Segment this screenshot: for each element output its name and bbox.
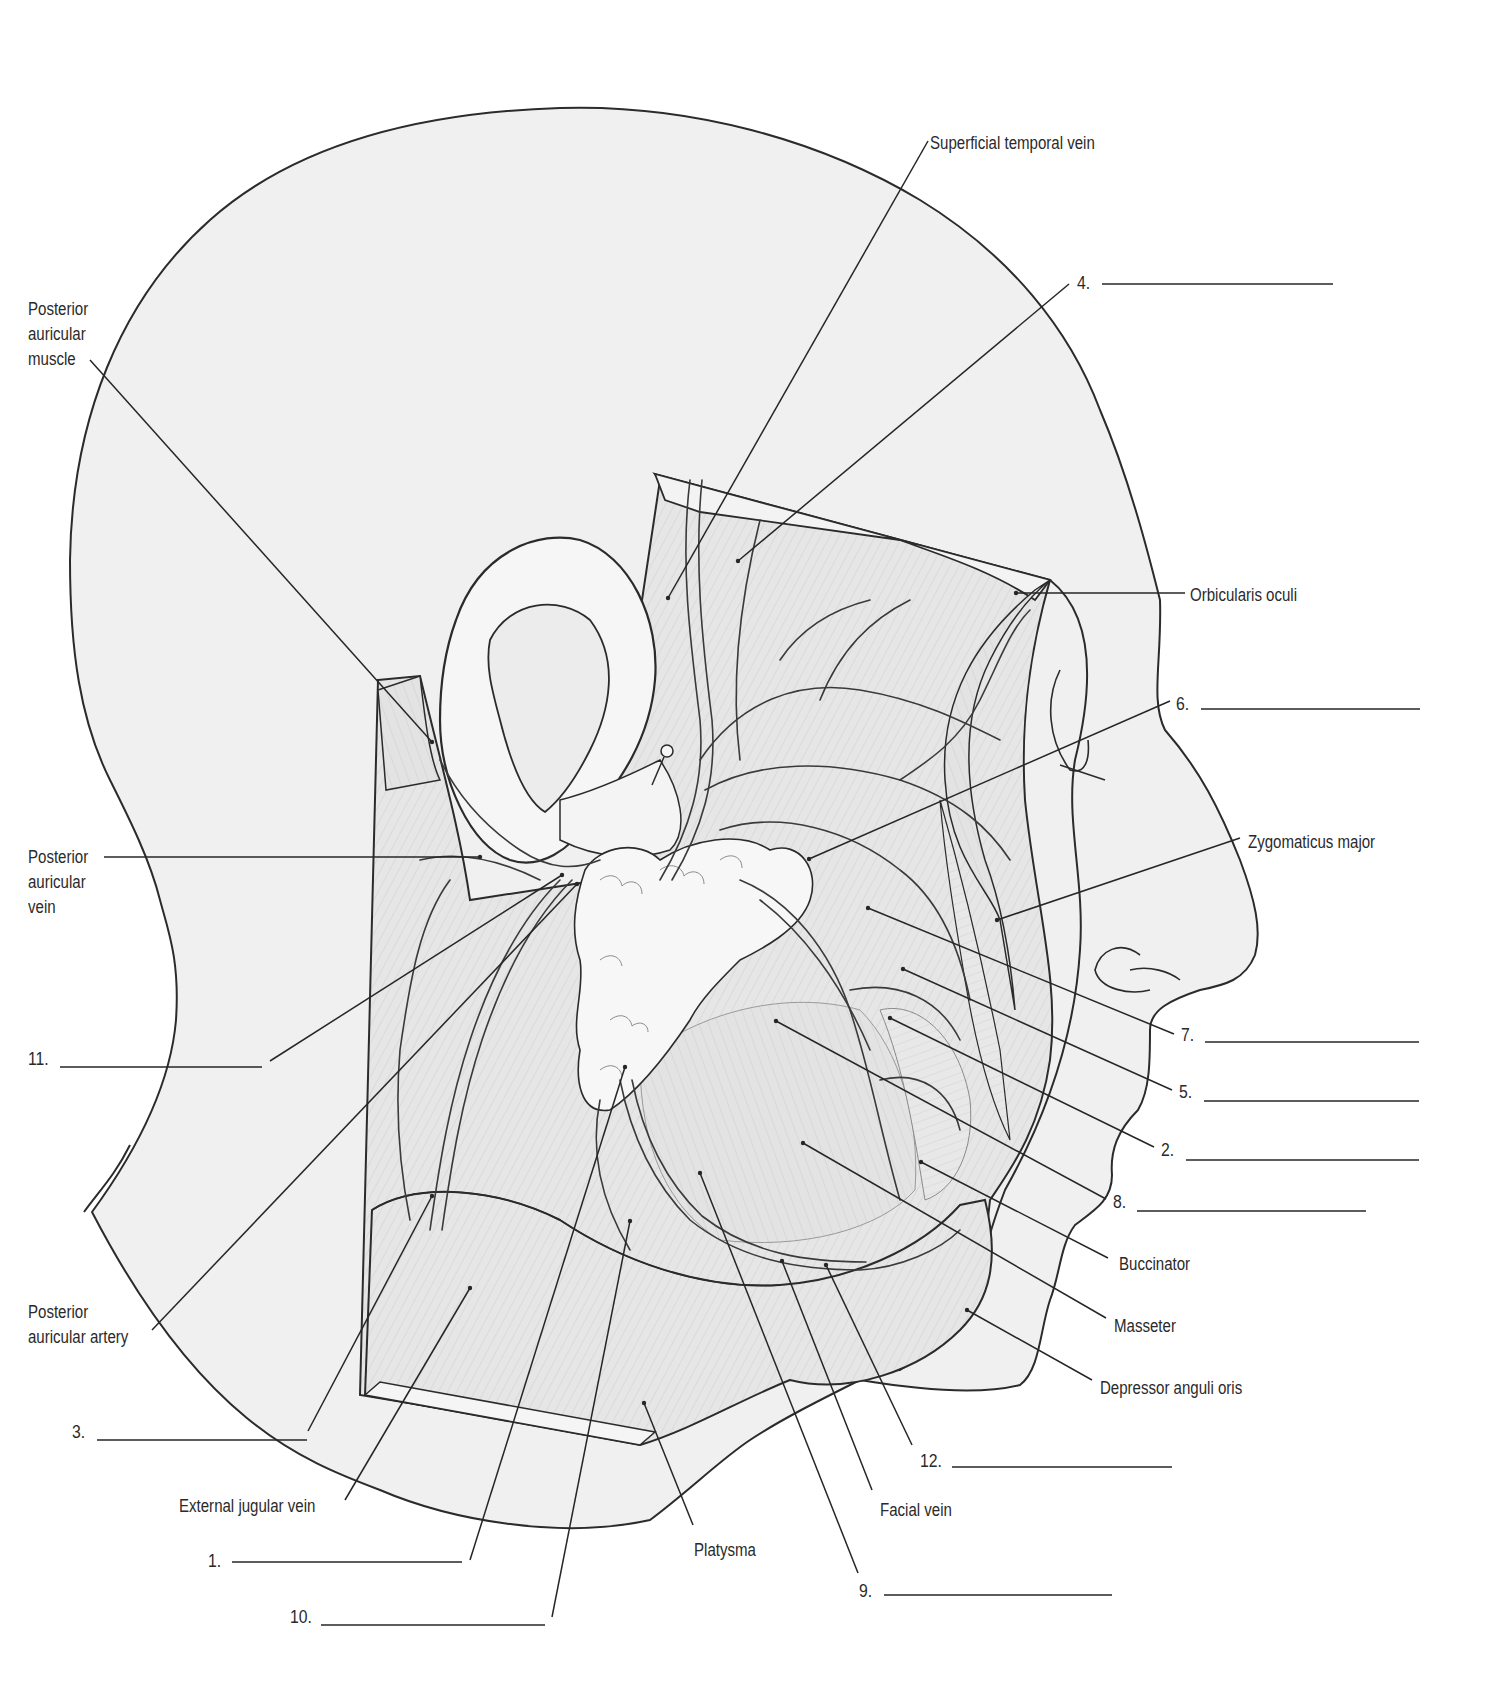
- label-posterior-auricular-vein: Posterior auricular vein: [28, 845, 88, 920]
- blank-number-1: 1.: [208, 1551, 221, 1572]
- leader-line-external-jugular-vein: [345, 1288, 470, 1500]
- leader-dot-12: [824, 1263, 828, 1267]
- leader-dot-platysma: [642, 1401, 646, 1405]
- leader-line-4: [738, 284, 1069, 561]
- leader-dot-buccinator: [919, 1160, 923, 1164]
- leader-line-facial-vein: [782, 1261, 872, 1490]
- leader-line-11: [270, 875, 562, 1061]
- anatomy-diagram: Superficial temporal vein Posterior auri…: [0, 0, 1499, 1703]
- leader-dot-3: [430, 1194, 434, 1198]
- label-masseter: Masseter: [1114, 1314, 1176, 1339]
- label-depressor-anguli-oris: Depressor anguli oris: [1100, 1376, 1242, 1401]
- leader-line-6: [809, 701, 1170, 859]
- leader-dot-masseter: [801, 1141, 805, 1145]
- label-facial-vein: Facial vein: [880, 1498, 952, 1523]
- leader-dot-superficial-temporal-vein: [666, 596, 670, 600]
- leader-line-buccinator: [921, 1162, 1108, 1258]
- leader-line-10: [552, 1221, 630, 1617]
- leader-line-5: [903, 969, 1172, 1090]
- blank-number-5: 5.: [1179, 1082, 1192, 1103]
- blank-number-6: 6.: [1176, 694, 1189, 715]
- label-orbicularis-oculi: Orbicularis oculi: [1190, 583, 1297, 608]
- leader-line-3: [308, 1196, 432, 1431]
- leader-line-1: [470, 1067, 625, 1560]
- blank-number-12: 12.: [920, 1451, 942, 1472]
- blank-number-3: 3.: [72, 1422, 85, 1443]
- leader-line-posterior-auricular-muscle: [90, 360, 432, 742]
- leader-dot-11: [560, 873, 564, 877]
- blank-number-8: 8.: [1113, 1192, 1126, 1213]
- leader-line-masseter: [803, 1143, 1106, 1318]
- blank-number-2: 2.: [1161, 1140, 1174, 1161]
- leader-line-superficial-temporal-vein: [668, 141, 928, 598]
- leader-dot-6: [807, 857, 811, 861]
- leader-line-depressor-anguli-oris: [967, 1310, 1092, 1380]
- leader-line-zygomaticus-major: [997, 838, 1240, 920]
- leader-line-platysma: [644, 1403, 693, 1525]
- leader-dot-external-jugular-vein: [468, 1286, 472, 1290]
- leader-dot-2: [888, 1016, 892, 1020]
- leader-dot-4: [736, 559, 740, 563]
- leader-dot-orbicularis-oculi: [1014, 591, 1018, 595]
- label-zygomaticus-major: Zygomaticus major: [1248, 830, 1375, 855]
- leader-dot-9: [698, 1171, 702, 1175]
- blank-number-7: 7.: [1181, 1025, 1194, 1046]
- leader-dot-posterior-auricular-artery: [575, 882, 579, 886]
- blank-number-10: 10.: [290, 1607, 312, 1628]
- leader-dot-zygomaticus-major: [995, 918, 999, 922]
- leader-dot-8: [774, 1019, 778, 1023]
- label-buccinator: Buccinator: [1119, 1252, 1190, 1277]
- label-posterior-auricular-artery: Posterior auricular artery: [28, 1300, 128, 1350]
- leader-dot-posterior-auricular-vein: [478, 855, 482, 859]
- leader-dot-posterior-auricular-muscle: [430, 740, 434, 744]
- leader-line-2: [890, 1018, 1154, 1147]
- blank-number-11: 11.: [28, 1049, 49, 1070]
- label-platysma: Platysma: [694, 1538, 756, 1563]
- label-superficial-temporal-vein: Superficial temporal vein: [930, 131, 1095, 156]
- blank-number-9: 9.: [859, 1581, 872, 1602]
- leader-dot-1: [623, 1065, 627, 1069]
- leader-line-12: [826, 1265, 912, 1445]
- label-external-jugular-vein: External jugular vein: [179, 1494, 315, 1519]
- leader-line-posterior-auricular-artery: [152, 884, 577, 1330]
- leader-dot-facial-vein: [780, 1259, 784, 1263]
- leader-dot-10: [628, 1219, 632, 1223]
- leader-dot-5: [901, 967, 905, 971]
- blank-number-4: 4.: [1077, 273, 1090, 294]
- leader-line-9: [700, 1173, 858, 1573]
- leader-dot-7: [866, 906, 870, 910]
- leader-line-7: [868, 908, 1174, 1034]
- leader-dot-depressor-anguli-oris: [965, 1308, 969, 1312]
- label-posterior-auricular-muscle: Posterior auricular muscle: [28, 297, 88, 372]
